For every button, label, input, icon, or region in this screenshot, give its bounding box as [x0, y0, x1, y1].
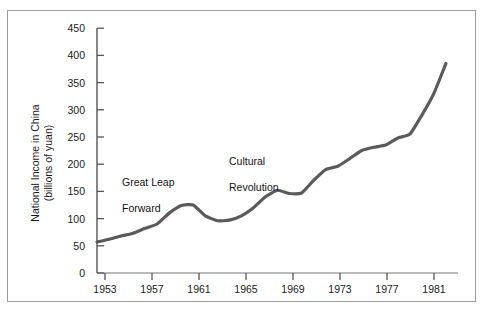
y-tick-label: 150 [53, 185, 85, 197]
y-tick-label: 50 [53, 240, 85, 252]
x-tick-label: 1981 [422, 283, 445, 295]
annotation-line2: Revolution [229, 181, 279, 194]
x-tick-label: 1953 [93, 283, 116, 295]
y-tick-label: 300 [53, 104, 85, 116]
x-tick-label: 1973 [328, 283, 351, 295]
annotation-line1: Great Leap [122, 176, 175, 189]
y-tick-label: 0 [53, 267, 85, 279]
x-tick-label: 1961 [187, 283, 210, 295]
annotation-cultural-revolution: Cultural Revolution [229, 142, 279, 207]
annotation-line1: Cultural [229, 155, 279, 168]
y-axis-ticks [97, 28, 104, 273]
x-tick-label: 1965 [234, 283, 257, 295]
x-axis-ticks [105, 273, 434, 280]
y-tick-label: 250 [53, 131, 85, 143]
x-tick-label: 1957 [140, 283, 163, 295]
chart-figure: 450 400 350 300 250 200 150 100 50 0 195… [0, 0, 484, 312]
y-axis-label: National Income in China (billions of yu… [29, 83, 55, 243]
y-axis-label-line2: (billions of yuan) [42, 83, 55, 243]
y-tick-label: 450 [53, 22, 85, 34]
y-tick-label: 200 [53, 158, 85, 170]
y-axis-label-line1: National Income in China [29, 83, 42, 243]
y-tick-label: 400 [53, 49, 85, 61]
x-tick-label: 1969 [281, 283, 304, 295]
annotation-line2: Forward [122, 202, 175, 215]
y-tick-label: 100 [53, 213, 85, 225]
x-tick-label: 1977 [375, 283, 398, 295]
annotation-great-leap-forward: Great Leap Forward [122, 163, 175, 228]
y-tick-label: 350 [53, 77, 85, 89]
